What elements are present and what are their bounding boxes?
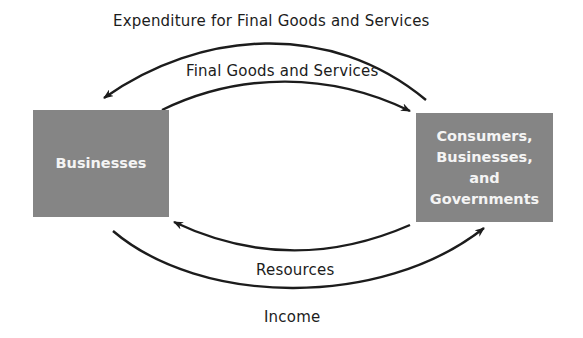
arrow-resources <box>174 222 410 250</box>
arrow-income <box>113 228 484 288</box>
node-consumers-businesses-governments: Consumers, Businesses, and Governments <box>416 113 553 222</box>
label-income: Income <box>264 308 320 326</box>
node-right-line-4: Governments <box>430 189 539 210</box>
node-businesses-label: Businesses <box>56 153 147 174</box>
node-businesses: Businesses <box>33 110 169 217</box>
label-final-goods: Final Goods and Services <box>186 62 378 80</box>
label-resources: Resources <box>256 261 334 279</box>
node-right-line-1: Consumers, <box>436 126 532 147</box>
label-expenditure: Expenditure for Final Goods and Services <box>113 12 430 30</box>
node-right-line-3: and <box>469 168 500 189</box>
node-right-line-2: Businesses, <box>436 147 532 168</box>
arrow-final-goods <box>162 82 410 111</box>
